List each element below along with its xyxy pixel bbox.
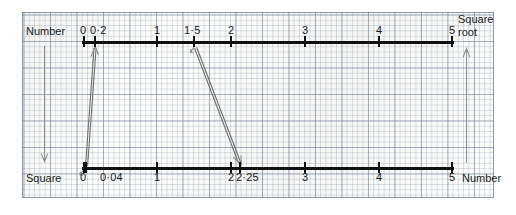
tick-label-top-3: 1·5 [184, 25, 201, 36]
tick-top-6 [378, 36, 381, 47]
tick-label-bottom-2: 1 [154, 172, 160, 183]
tick-label-bottom-7: 5 [449, 172, 455, 183]
tick-label-top-5: 3 [302, 25, 308, 36]
tick-label-bottom-3: 2 [228, 172, 234, 183]
axis-caption-square-left: Square [26, 172, 61, 185]
axis-caption-square-root-right: Square root [458, 13, 493, 38]
axis-caption-number-right: Number [462, 172, 501, 185]
square-root-line2: root [458, 26, 493, 39]
tick-top-1 [94, 36, 97, 47]
tick-top-3 [193, 36, 196, 47]
tick-label-bottom-0: 0 [80, 172, 86, 183]
tick-label-top-0: 0 [80, 25, 86, 36]
tick-label-bottom-6: 4 [376, 172, 382, 183]
tick-label-top-1: 0·2 [90, 25, 107, 36]
tick-label-top-4: 2 [228, 25, 234, 36]
tick-top-0 [83, 36, 86, 47]
tick-top-7 [451, 36, 454, 47]
tick-top-2 [156, 36, 159, 47]
tick-label-top-2: 1 [154, 25, 160, 36]
tick-top-5 [304, 36, 307, 47]
tick-label-bottom-4: 2·25 [236, 172, 259, 183]
tick-label-bottom-5: 3 [302, 172, 308, 183]
tick-label-bottom-1: 0·04 [100, 172, 123, 183]
tick-label-top-7: 5 [449, 25, 455, 36]
axis-caption-number-left: Number [26, 25, 65, 38]
tick-top-4 [230, 36, 233, 47]
square-root-line1: Square [458, 13, 493, 26]
number-line-top [82, 41, 454, 44]
number-line-bottom [82, 167, 454, 170]
tick-label-top-6: 4 [376, 25, 382, 36]
